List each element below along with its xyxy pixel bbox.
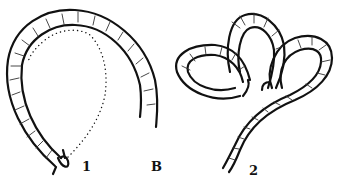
knot-diagram: 1 B 2 [0, 0, 342, 181]
rope-step-1 [7, 10, 157, 174]
knot-illustration [0, 0, 342, 181]
step-2-label: 2 [249, 164, 258, 177]
step-1-label: 1 [82, 160, 91, 173]
rope-step-2 [176, 13, 332, 172]
panel-label: B [151, 160, 162, 173]
